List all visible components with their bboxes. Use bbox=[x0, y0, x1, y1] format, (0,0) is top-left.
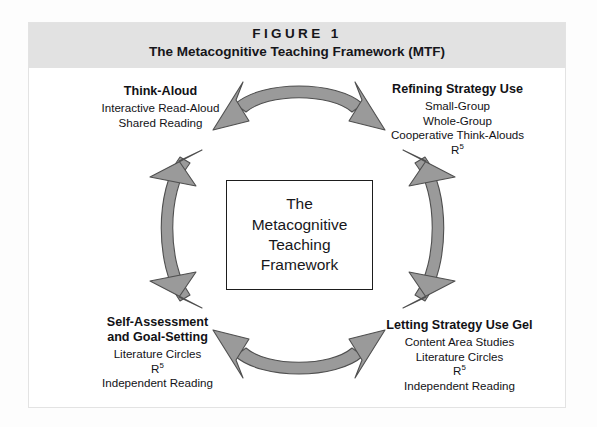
quadrant-heading: Refining Strategy Use bbox=[350, 82, 565, 97]
center-framework-box: The Metacognitive Teaching Framework bbox=[226, 180, 373, 290]
quadrant-item: R5 bbox=[350, 143, 565, 158]
figure-title: The Metacognitive Teaching Framework (MT… bbox=[29, 42, 565, 60]
figure-container: FIGURE 1 The Metacognitive Teaching Fram… bbox=[0, 0, 597, 427]
quadrant-item: Literature Circles bbox=[55, 347, 260, 362]
quadrant-items: Literature CirclesR5Independent Reading bbox=[55, 347, 260, 391]
quadrant-letting-strategy-use-gel: Letting Strategy Use Gel Content Area St… bbox=[352, 318, 567, 393]
quadrant-item: Whole-Group bbox=[350, 114, 565, 129]
quadrant-item: Small-Group bbox=[350, 99, 565, 114]
quadrant-think-aloud: Think-Aloud Interactive Read-AloudShared… bbox=[58, 84, 263, 130]
quadrant-items: Interactive Read-AloudShared Reading bbox=[58, 101, 263, 130]
figure-number: FIGURE 1 bbox=[29, 23, 565, 42]
quadrant-self-assessment-and-goal-setting: Self-Assessment and Goal-Setting Literat… bbox=[55, 315, 260, 391]
quadrant-heading: Self-Assessment and Goal-Setting bbox=[55, 315, 260, 345]
quadrant-heading: Letting Strategy Use Gel bbox=[352, 318, 567, 333]
figure-header-band: FIGURE 1 The Metacognitive Teaching Fram… bbox=[29, 23, 565, 68]
quadrant-item: R5 bbox=[55, 362, 260, 377]
quadrant-item: Independent Reading bbox=[352, 379, 567, 394]
quadrant-item: Independent Reading bbox=[55, 376, 260, 391]
quadrant-item: Interactive Read-Aloud bbox=[58, 101, 263, 116]
quadrant-item: Cooperative Think-Alouds bbox=[350, 128, 565, 143]
center-framework-label: The Metacognitive Teaching Framework bbox=[252, 194, 348, 276]
quadrant-item: R5 bbox=[352, 364, 567, 379]
quadrant-item: Literature Circles bbox=[352, 350, 567, 365]
quadrant-items: Small-GroupWhole-GroupCooperative Think-… bbox=[350, 99, 565, 157]
quadrant-refining-strategy-use: Refining Strategy Use Small-GroupWhole-G… bbox=[350, 82, 565, 157]
quadrant-items: Content Area StudiesLiterature CirclesR5… bbox=[352, 335, 567, 393]
quadrant-item: Content Area Studies bbox=[352, 335, 567, 350]
quadrant-heading: Think-Aloud bbox=[58, 84, 263, 99]
quadrant-item: Shared Reading bbox=[58, 116, 263, 131]
